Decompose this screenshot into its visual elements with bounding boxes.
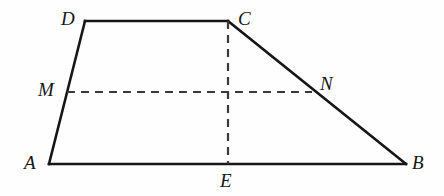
vertex-label-B: B (412, 153, 424, 172)
vertex-label-M: M (38, 80, 54, 99)
vertex-label-D: D (61, 9, 75, 28)
vertex-label-E: E (220, 171, 232, 190)
geometry-figure: D C M N A E B (0, 0, 444, 196)
geometry-canvas (0, 0, 444, 196)
vertex-label-N: N (320, 74, 333, 93)
vertex-label-C: C (238, 9, 251, 28)
vertex-label-A: A (24, 153, 36, 172)
